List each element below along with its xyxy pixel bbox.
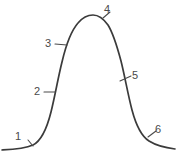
curve-graphic (0, 0, 177, 159)
callout-label-1: 1 (15, 131, 21, 142)
curve-diagram: 1 2 3 4 5 6 (0, 0, 177, 159)
leader-line-3 (55, 44, 67, 45)
callout-label-5: 5 (132, 70, 138, 81)
callout-label-2: 2 (34, 86, 40, 97)
callout-label-4: 4 (104, 4, 110, 15)
bell-curve-path (2, 15, 175, 150)
callout-label-3: 3 (45, 38, 51, 49)
callout-label-6: 6 (155, 124, 161, 135)
